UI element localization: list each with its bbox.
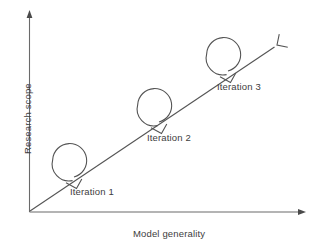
iteration-2-loop-arc: [137, 89, 172, 126]
iteration-3-label: Iteration 3: [217, 81, 261, 92]
diagram-canvas: [0, 0, 327, 248]
iteration-1-label: Iteration 1: [70, 186, 114, 197]
x-axis-label: Model generality: [133, 228, 205, 239]
y-axis-label: Research scope: [22, 83, 33, 154]
iteration-3-loop-arc: [206, 38, 241, 75]
iteration-diagram: Research scope Model generality Iteratio…: [0, 0, 327, 248]
iteration-1-loop-arc: [52, 144, 87, 181]
y-axis-arrowhead-icon: [27, 10, 33, 18]
progression-arrowhead-icon: [277, 34, 290, 47]
x-axis-arrowhead-icon: [298, 209, 306, 215]
iteration-2-label: Iteration 2: [147, 132, 191, 143]
